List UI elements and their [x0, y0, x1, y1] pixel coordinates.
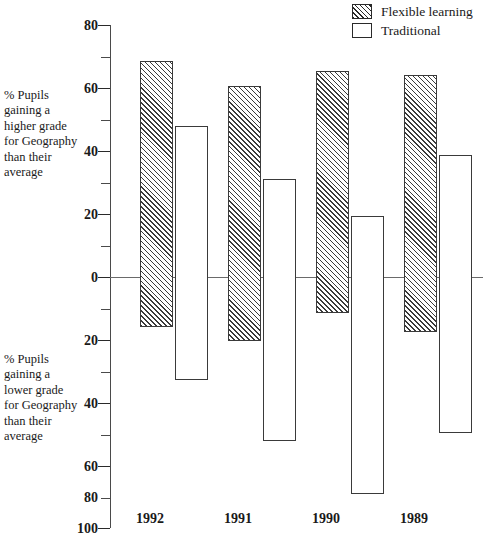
y-tick-80-up: [98, 25, 110, 26]
y-tick-label-80-down: 80: [52, 491, 98, 505]
y-tick-label-20-up: 20: [52, 208, 98, 222]
x-tick-label-1989: 1989: [369, 512, 459, 526]
legend-swatch-hatched-icon: [352, 4, 372, 19]
x-tick-label-1991: 1991: [193, 512, 283, 526]
bar-group-1990: [316, 25, 384, 528]
y-tick-20-up: [98, 214, 110, 215]
legend-item-flexible-learning: Flexible learning: [352, 2, 483, 21]
y-tick-label-0: 0: [52, 271, 98, 285]
bar-group-1989: [404, 25, 472, 528]
y-tick-label-100-down: 100: [52, 522, 98, 536]
y-tick-70-down: [101, 498, 110, 499]
bar-1990-flexible-learning: [316, 71, 349, 313]
y-tick-70-up: [101, 57, 110, 58]
y-tick-30-up: [101, 183, 110, 184]
bar-1990-traditional: [351, 216, 384, 495]
bar-1992-traditional: [175, 126, 208, 380]
y-tick-40-down: [98, 403, 110, 404]
bar-group-1992: [140, 25, 208, 528]
y-tick-50-down: [101, 435, 110, 436]
y-tick-label-40-up: 40: [52, 145, 98, 159]
y-tick-50-up: [101, 120, 110, 121]
y-tick-label-40-down: 40: [52, 397, 98, 411]
bar-group-1991: [228, 25, 296, 528]
y-tick-10-down: [101, 309, 110, 310]
x-tick-label-1990: 1990: [281, 512, 371, 526]
y-tick-20-down: [98, 340, 110, 341]
y-axis-tick-labels: 80 60 40 20 0 20 40 60 80 100: [52, 25, 98, 528]
y-tick-label-60-down: 60: [52, 460, 98, 474]
y-tick-10-up: [101, 246, 110, 247]
x-tick-label-1992: 1992: [105, 512, 195, 526]
y-tick-100-down: [98, 528, 110, 529]
bar-1992-flexible-learning: [140, 61, 173, 326]
bar-1989-traditional: [439, 155, 472, 433]
y-tick-30-down: [101, 372, 110, 373]
y-tick-40-up: [98, 151, 110, 152]
y-tick-label-60-up: 60: [52, 82, 98, 96]
y-tick-60-down: [98, 466, 110, 467]
y-tick-label-20-down: 20: [52, 334, 98, 348]
bar-1991-flexible-learning: [228, 86, 261, 340]
bar-1991-traditional: [263, 179, 296, 442]
y-tick-60-up: [98, 88, 110, 89]
y-tick-0: [98, 277, 110, 278]
plot-area: 1992 1991 1990 1989: [110, 25, 483, 528]
y-tick-label-80-up: 80: [52, 19, 98, 33]
bar-1989-flexible-learning: [404, 75, 437, 332]
legend-label-flexible-learning: Flexible learning: [381, 5, 473, 19]
bar-chart: Flexible learning Traditional % Pupils g…: [0, 0, 483, 544]
